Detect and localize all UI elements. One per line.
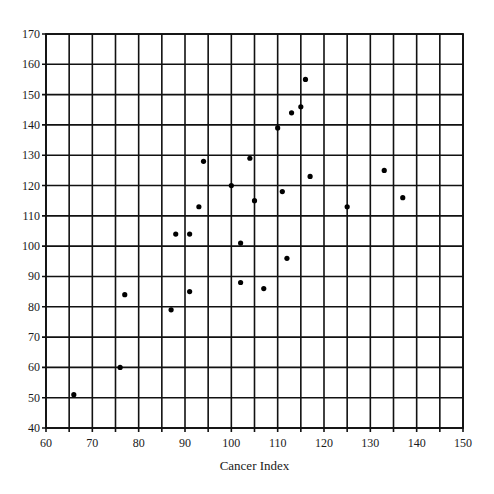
data-point	[345, 204, 350, 209]
y-tick-label: 50	[28, 391, 40, 405]
y-tick-label: 90	[28, 269, 40, 283]
data-point	[382, 168, 387, 173]
data-point	[187, 231, 192, 236]
y-tick-label: 100	[22, 239, 40, 253]
data-point	[400, 195, 405, 200]
data-point	[308, 174, 313, 179]
data-point	[303, 77, 308, 82]
data-point	[275, 125, 280, 130]
data-point	[280, 189, 285, 194]
x-tick-label: 110	[269, 436, 287, 450]
x-tick-label: 140	[408, 436, 426, 450]
x-tick-label: 80	[133, 436, 145, 450]
data-point	[229, 183, 234, 188]
x-tick-label: 100	[222, 436, 240, 450]
y-tick-label: 160	[22, 57, 40, 71]
x-tick-label: 150	[454, 436, 472, 450]
y-axis-tick-labels: 405060708090100110120130140150160170	[22, 27, 40, 435]
y-tick-label: 130	[22, 148, 40, 162]
data-point	[201, 159, 206, 164]
y-tick-label: 70	[28, 330, 40, 344]
data-point	[122, 292, 127, 297]
data-point	[238, 241, 243, 246]
x-tick-label: 90	[179, 436, 191, 450]
data-point	[252, 198, 257, 203]
data-point	[284, 256, 289, 261]
x-tick-label: 120	[315, 436, 333, 450]
data-point	[71, 392, 76, 397]
data-point	[118, 365, 123, 370]
data-point	[173, 231, 178, 236]
x-axis-tick-labels: 60708090100110120130140150	[40, 436, 472, 450]
scatter-chart: 60708090100110120130140150 4050607080901…	[0, 0, 494, 494]
y-tick-label: 80	[28, 300, 40, 314]
y-tick-label: 60	[28, 360, 40, 374]
y-tick-label: 110	[22, 209, 40, 223]
y-tick-label: 150	[22, 88, 40, 102]
chart-grid	[42, 34, 463, 432]
data-point	[289, 110, 294, 115]
y-tick-label: 40	[28, 421, 40, 435]
data-point	[298, 104, 303, 109]
data-point	[238, 280, 243, 285]
y-tick-label: 170	[22, 27, 40, 41]
y-tick-label: 140	[22, 118, 40, 132]
data-point	[247, 156, 252, 161]
data-point	[196, 204, 201, 209]
x-tick-label: 60	[40, 436, 52, 450]
y-tick-label: 120	[22, 179, 40, 193]
data-point	[187, 289, 192, 294]
data-point	[261, 286, 266, 291]
data-point	[169, 307, 174, 312]
x-tick-label: 70	[86, 436, 98, 450]
x-tick-label: 130	[361, 436, 379, 450]
x-axis-title: Cancer Index	[220, 458, 290, 473]
